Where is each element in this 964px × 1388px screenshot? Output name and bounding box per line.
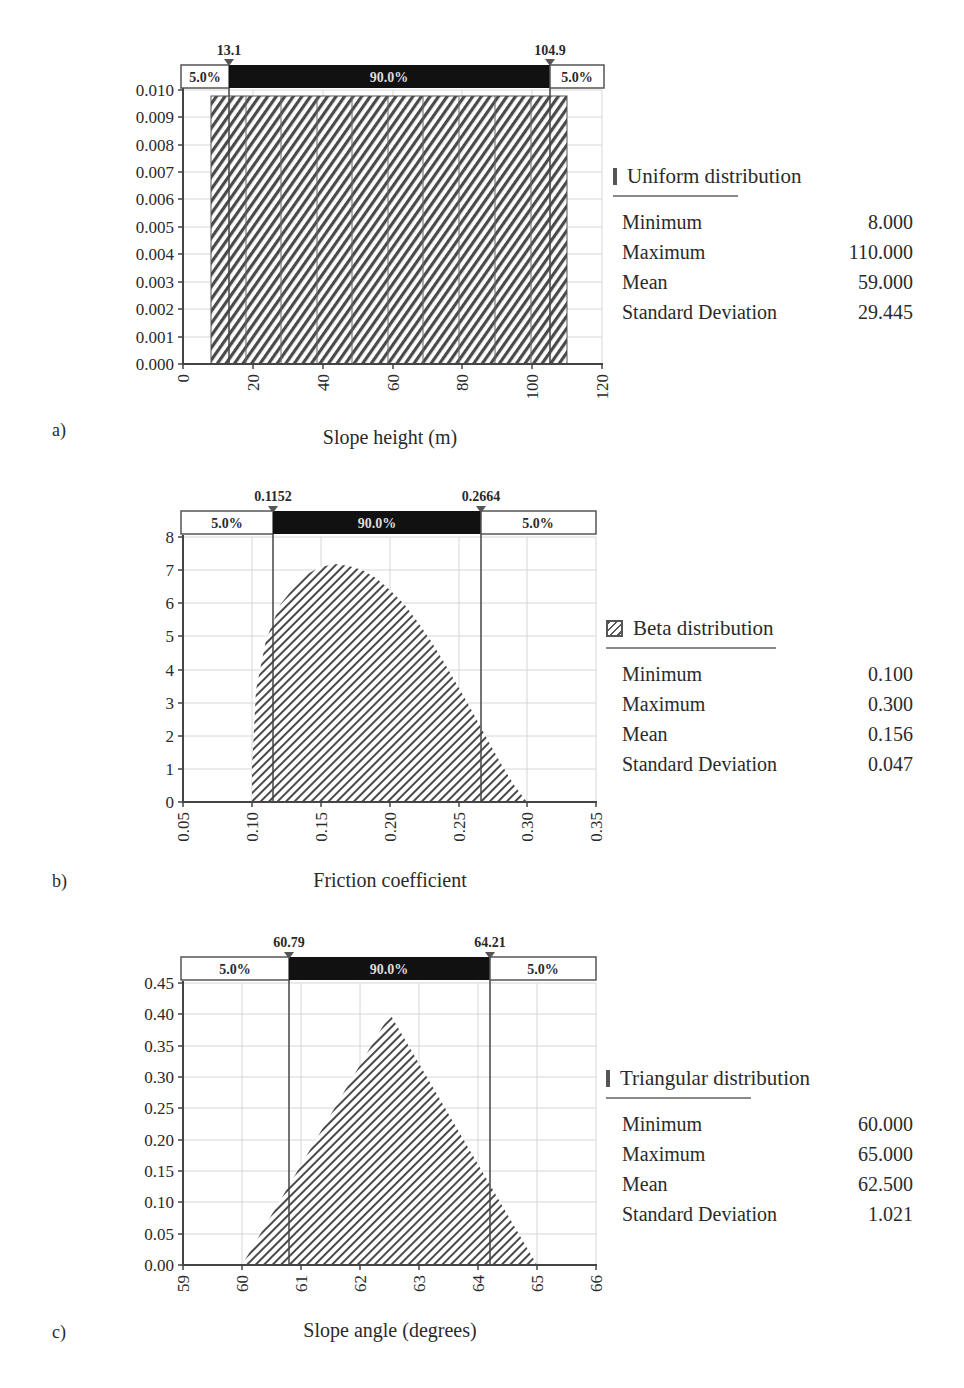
stats-table: Minimum60.000 Maximum65.000 Mean62.500 S…	[606, 1109, 913, 1229]
svg-text:65: 65	[528, 1275, 547, 1292]
svg-text:66: 66	[587, 1275, 606, 1292]
svg-text:5.0%: 5.0%	[527, 962, 559, 977]
svg-text:0.00: 0.00	[144, 1256, 174, 1275]
panel-c: 0.45 0.40 0.35 0.30 0.25 0.20 0.15 0.10 …	[0, 0, 964, 1388]
svg-text:0.25: 0.25	[144, 1099, 174, 1118]
svg-text:59: 59	[174, 1275, 193, 1292]
x-tick-labels: 59 60 61 62 63 64 65 66	[174, 1275, 606, 1293]
svg-text:62: 62	[351, 1275, 370, 1292]
right-marker-value: 64.21	[474, 935, 506, 950]
panel-label-c: c)	[52, 1322, 66, 1343]
x-axis-label: Slope angle (degrees)	[303, 1319, 476, 1342]
svg-text:0.35: 0.35	[144, 1037, 174, 1056]
y-tick-labels: 0.45 0.40 0.35 0.30 0.25 0.20 0.15 0.10 …	[144, 974, 174, 1275]
percentile-band[interactable]: 5.0% 90.0% 5.0% 60.79 64.21	[181, 935, 596, 980]
svg-text:60: 60	[233, 1275, 252, 1292]
left-marker-value: 60.79	[273, 935, 305, 950]
legend-title: Triangular distribution	[620, 1066, 810, 1091]
svg-text:0.20: 0.20	[144, 1131, 174, 1150]
svg-text:63: 63	[410, 1275, 429, 1292]
svg-text:90.0%: 90.0%	[370, 962, 409, 977]
svg-text:0.15: 0.15	[144, 1162, 174, 1181]
svg-text:5.0%: 5.0%	[219, 962, 251, 977]
svg-text:64: 64	[469, 1275, 488, 1293]
hatch-swatch-icon	[606, 1070, 610, 1087]
svg-text:0.30: 0.30	[144, 1068, 174, 1087]
legend-triangular: Triangular distribution Minimum60.000 Ma…	[606, 1066, 913, 1229]
svg-text:0.10: 0.10	[144, 1193, 174, 1212]
svg-text:61: 61	[292, 1275, 311, 1292]
svg-text:0.05: 0.05	[144, 1225, 174, 1244]
svg-text:0.40: 0.40	[144, 1005, 174, 1024]
svg-text:0.45: 0.45	[144, 974, 174, 993]
